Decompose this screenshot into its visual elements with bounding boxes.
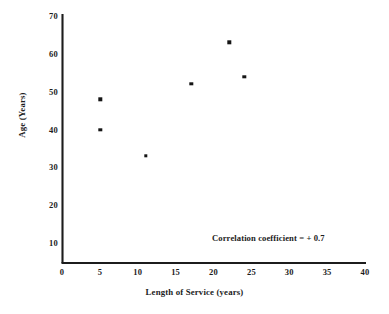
x-tick-label-30: 30 [285, 267, 294, 277]
y-tick-label-40: 40 [40, 125, 58, 135]
y-tick-label-60: 60 [40, 49, 58, 59]
scatter-plot-figure: 10 20 30 40 50 60 70 0 5 10 15 20 25 30 … [0, 0, 389, 314]
x-tick-label-10: 10 [133, 267, 142, 277]
y-axis-title: Age (Years) [17, 92, 27, 137]
data-point-22-63 [227, 41, 230, 44]
data-point-24-54 [243, 75, 246, 78]
data-point-5-48 [99, 98, 102, 101]
y-tick-label-70: 70 [40, 11, 58, 21]
x-axis-title: Length of Service (years) [0, 287, 389, 297]
x-tick-label-20: 20 [209, 267, 218, 277]
x-tick-label-25: 25 [247, 267, 256, 277]
x-tick-label-40: 40 [361, 267, 370, 277]
data-point-5-40 [99, 128, 102, 131]
x-tick-label-0: 0 [60, 267, 64, 277]
x-tick-label-15: 15 [171, 267, 180, 277]
y-tick-label-10: 10 [40, 238, 58, 248]
y-tick-label-20: 20 [40, 200, 58, 210]
data-point-17-52 [190, 82, 193, 85]
y-tick-label-30: 30 [40, 162, 58, 172]
y-tick-label-50: 50 [40, 87, 58, 97]
x-tick-label-35: 35 [323, 267, 332, 277]
data-point-11-33 [144, 154, 147, 157]
x-tick-label-5: 5 [98, 267, 102, 277]
correlation-coefficient-annotation: Correlation coefficient = + 0.7 [212, 233, 325, 243]
